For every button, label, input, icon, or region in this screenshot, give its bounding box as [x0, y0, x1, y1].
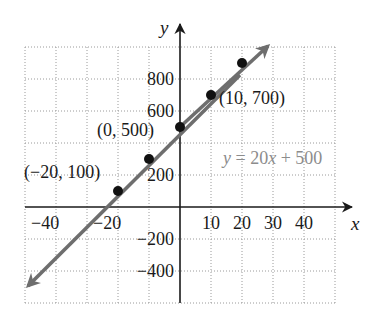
y-tick-200: 200 — [147, 165, 174, 185]
point-label-neg20-100: (−20, 100) — [24, 162, 100, 183]
point-label-10-700: (10, 700) — [219, 88, 285, 109]
y-tick-600: 600 — [147, 101, 174, 121]
point-20-900 — [237, 58, 247, 68]
point-neg20-100 — [113, 186, 123, 196]
x-tick-40: 40 — [295, 213, 313, 233]
x-tick-10: 10 — [202, 213, 220, 233]
x-tick-neg40: −40 — [31, 213, 59, 233]
point-0-500 — [175, 122, 185, 132]
y-tick-800: 800 — [147, 69, 174, 89]
y-tick-neg400: −400 — [137, 261, 174, 281]
y-axis-label: y — [158, 17, 169, 38]
x-tick-30: 30 — [264, 213, 282, 233]
plot-line-upper — [180, 46, 268, 127]
x-axis-label: x — [350, 213, 360, 234]
y-tick-neg200: −200 — [137, 229, 174, 249]
point-10-700 — [206, 90, 216, 100]
x-tick-20: 20 — [233, 213, 251, 233]
line-graph: x y −40 −20 10 20 30 40 800 600 200 −200… — [0, 0, 385, 313]
point-neg10-300 — [144, 154, 154, 164]
equation-label: y = 20x + 500 — [221, 148, 322, 168]
point-label-0-500: (0, 500) — [97, 120, 154, 141]
